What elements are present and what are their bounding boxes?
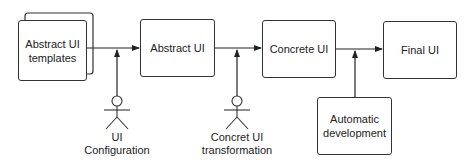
node-abstract-ui-templates: Abstract UI templates: [18, 20, 87, 81]
actor-label-ui-configuration: UI Configuration: [82, 131, 152, 157]
node-final-ui: Final UI: [383, 21, 457, 79]
actor-concrete-transformation-icon: [224, 96, 250, 129]
node-label: Final UI: [401, 43, 439, 57]
node-label: Abstract UI templates: [19, 37, 86, 65]
node-concrete-ui: Concrete UI: [262, 20, 336, 78]
actor-label-concrete-transformation: Concret UI transformation: [197, 131, 277, 157]
node-abstract-ui: Abstract UI: [140, 19, 215, 77]
actor-ui-configuration-icon: [104, 96, 130, 129]
node-label: Automatic development: [323, 112, 386, 140]
node-label: Concrete UI: [270, 42, 329, 56]
node-automatic-development: Automatic development: [317, 97, 392, 155]
node-label: Abstract UI: [150, 41, 204, 55]
